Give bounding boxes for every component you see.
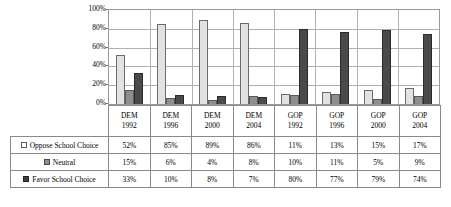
bar	[299, 29, 308, 104]
table-cell: 74%	[399, 171, 441, 188]
legend-entry: Oppose School Choice	[11, 137, 109, 154]
bar	[157, 24, 166, 104]
bar	[217, 96, 226, 104]
column-header-party: DEM	[151, 111, 192, 121]
bar	[405, 88, 414, 104]
bar	[382, 30, 391, 104]
y-axis: 100%80%60%40%20%0%	[80, 0, 106, 105]
y-axis-tick-mark	[105, 65, 108, 66]
bar	[340, 32, 349, 104]
table-column-header: GOP1992	[275, 106, 317, 137]
table-column-header: DEM1996	[150, 106, 192, 137]
bar	[414, 96, 423, 104]
bar-group	[109, 10, 150, 104]
column-header-party: GOP	[400, 111, 441, 121]
table-cell: 15%	[358, 137, 400, 154]
table-cell: 33%	[109, 171, 151, 188]
bar	[281, 94, 290, 104]
bar-group	[398, 10, 439, 104]
table-cell: 11%	[275, 137, 317, 154]
column-header-year: 1992	[275, 121, 316, 131]
bar	[125, 90, 134, 104]
bar	[373, 99, 382, 104]
legend-swatch-icon	[21, 142, 27, 148]
bar	[249, 96, 258, 104]
table-column-header: GOP2000	[358, 106, 400, 137]
bar	[166, 98, 175, 104]
y-axis-tick-label: 40%	[92, 61, 106, 69]
bar-group	[150, 10, 191, 104]
table-cell: 13%	[316, 137, 358, 154]
table-cell: 79%	[358, 171, 400, 188]
data-table: DEM1992DEM1996DEM2000DEM2004GOP1992GOP19…	[10, 105, 441, 188]
table-column-header: DEM2000	[192, 106, 234, 137]
table-row: Oppose School Choice52%85%89%86%11%13%15…	[11, 137, 441, 154]
table-column-header: GOP1996	[316, 106, 358, 137]
column-header-year: 2000	[192, 121, 233, 131]
table-cell: 8%	[233, 154, 275, 171]
legend-entry: Neutral	[11, 154, 109, 171]
legend-swatch-icon	[23, 176, 29, 182]
y-axis-tick-label: 20%	[92, 80, 106, 88]
y-axis-tick-label: 60%	[92, 43, 106, 51]
table-body: Oppose School Choice52%85%89%86%11%13%15…	[11, 137, 441, 188]
table-header-row: DEM1992DEM1996DEM2000DEM2004GOP1992GOP19…	[11, 106, 441, 137]
column-header-year: 1992	[109, 121, 150, 131]
column-header-year: 2004	[400, 121, 441, 131]
legend-label: Oppose School Choice	[30, 141, 99, 150]
bar	[240, 23, 249, 104]
bar	[423, 34, 432, 104]
table-cell: 4%	[192, 154, 234, 171]
table-cell: 5%	[358, 154, 400, 171]
legend-entry: Favor School Choice	[11, 171, 109, 188]
table-corner-cell	[11, 106, 109, 137]
legend-swatch-icon	[44, 159, 50, 165]
bar	[258, 97, 267, 104]
legend-label: Favor School Choice	[32, 175, 95, 184]
table-cell: 17%	[399, 137, 441, 154]
y-axis-tick-mark	[105, 84, 108, 85]
bar-group	[192, 10, 233, 104]
bar-groups	[109, 10, 439, 104]
table-cell: 85%	[150, 137, 192, 154]
column-header-party: GOP	[275, 111, 316, 121]
chart-figure: 100%80%60%40%20%0% DEM1992DEM1996DEM2000…	[0, 0, 451, 207]
table-column-header: GOP2004	[399, 106, 441, 137]
table-row: Favor School Choice33%10%8%7%80%77%79%74…	[11, 171, 441, 188]
column-header-party: DEM	[192, 111, 233, 121]
table-cell: 7%	[233, 171, 275, 188]
table-cell: 10%	[275, 154, 317, 171]
column-header-year: 1996	[317, 121, 358, 131]
column-header-party: DEM	[234, 111, 275, 121]
column-header-party: GOP	[358, 111, 399, 121]
column-header-year: 1996	[151, 121, 192, 131]
bar	[322, 92, 331, 104]
column-header-party: GOP	[317, 111, 358, 121]
table-cell: 52%	[109, 137, 151, 154]
table-cell: 9%	[399, 154, 441, 171]
plot-area	[108, 9, 440, 105]
bar	[175, 95, 184, 104]
column-header-party: DEM	[109, 111, 150, 121]
table-column-header: DEM2004	[233, 106, 275, 137]
bar-group	[233, 10, 274, 104]
table-cell: 89%	[192, 137, 234, 154]
bar-group	[315, 10, 356, 104]
table-cell: 15%	[109, 154, 151, 171]
table-cell: 80%	[275, 171, 317, 188]
bar	[134, 73, 143, 104]
table-cell: 8%	[192, 171, 234, 188]
bar	[364, 90, 373, 104]
y-axis-tick-label: 80%	[92, 24, 106, 32]
column-header-year: 2004	[234, 121, 275, 131]
y-axis-tick-label: 100%	[89, 5, 107, 13]
table-cell: 6%	[150, 154, 192, 171]
bar	[208, 100, 217, 104]
table-cell: 10%	[150, 171, 192, 188]
table-cell: 77%	[316, 171, 358, 188]
table-cell: 86%	[233, 137, 275, 154]
table-row: Neutral15%6%4%8%10%11%5%9%	[11, 154, 441, 171]
bar	[290, 95, 299, 104]
legend-label: Neutral	[53, 158, 76, 167]
y-axis-tick-mark	[105, 9, 108, 10]
